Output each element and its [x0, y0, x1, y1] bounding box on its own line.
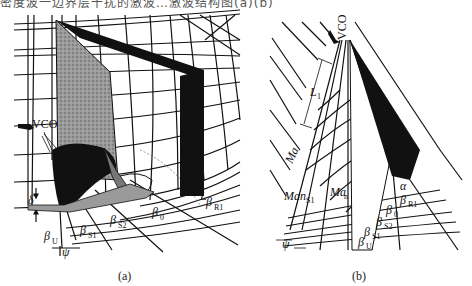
- label-psi-a: ψ: [62, 245, 70, 259]
- label-beta-r1-b: β: [399, 193, 406, 207]
- label-psi-b: ψ: [282, 237, 290, 251]
- label-l1-sub: 1: [317, 92, 321, 101]
- label-beta-s1-a-sub: S1: [88, 231, 96, 240]
- label-beta-r1-a-sub: R1: [214, 203, 223, 212]
- label-ma-n-sub: n: [344, 192, 348, 201]
- label-delta: δ: [28, 193, 34, 207]
- label-beta-u-b: β: [357, 235, 364, 249]
- figure: VCO δ β U ψ β S1 β S2 β 0 L β R1 (a): [0, 0, 472, 286]
- label-beta-0-a-sub: 0: [160, 213, 164, 222]
- black-vertical-plate: [180, 70, 204, 196]
- label-beta-0-a: β: [151, 205, 158, 219]
- label-beta-u-a: β: [43, 229, 50, 243]
- label-beta-0-b-sub: 0: [394, 210, 398, 219]
- label-beta-r1-b-sub: R1: [408, 200, 417, 209]
- label-beta-s1-a: β: [79, 223, 86, 237]
- label-man-s1-sub: S1: [306, 196, 314, 205]
- label-beta-s2-b-sub: S2: [384, 222, 392, 231]
- grey-ground-band: [28, 184, 154, 212]
- label-beta-s2-a-sub: S2: [118, 221, 126, 230]
- panel-b-caption: (b): [352, 269, 366, 283]
- label-beta-u-b-sub: U: [366, 242, 372, 251]
- label-beta-0-b: β: [385, 203, 392, 217]
- label-beta-s1-b: β: [363, 225, 370, 239]
- label-man-s1: Man: [283, 189, 306, 203]
- label-vco-a: VCO: [32, 117, 58, 131]
- label-beta-s2-a: β: [109, 213, 116, 227]
- label-beta-u-a-sub: U: [52, 237, 58, 246]
- label-alpha: α: [400, 179, 407, 193]
- label-beta-r1-a: β: [205, 195, 212, 209]
- label-beta-s2-b: β: [375, 215, 382, 229]
- label-vco-b: VCO: [335, 14, 349, 40]
- label-beta-s1-b-sub: S1: [372, 232, 380, 241]
- label-l1: L: [309, 85, 317, 99]
- panel-a-caption: (a): [118, 269, 131, 283]
